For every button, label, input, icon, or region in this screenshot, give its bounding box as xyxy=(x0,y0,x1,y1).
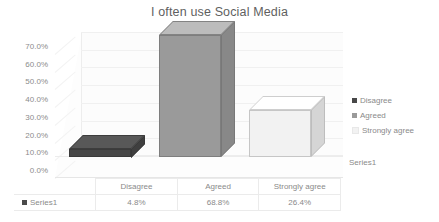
bar-strongly-agree[interactable] xyxy=(249,110,311,157)
table-cell-value: 26.4% xyxy=(259,195,341,211)
y-tick-label: 40.0% xyxy=(25,95,48,104)
series-swatch-icon xyxy=(22,200,27,205)
data-table: Disagree Agreed Strongly agree Series1 4… xyxy=(14,178,341,211)
table-column-header: Disagree xyxy=(96,179,178,195)
table-corner-cell xyxy=(14,179,96,195)
legend-label: Agreed xyxy=(360,112,386,120)
y-tick-label: 50.0% xyxy=(25,77,48,86)
legend-swatch-icon xyxy=(352,113,357,118)
y-tick-label: 0.0% xyxy=(30,166,48,175)
table-column-header: Strongly agree xyxy=(259,179,341,195)
bar-front-face xyxy=(249,110,311,157)
table-row-header: Series1 xyxy=(14,195,96,211)
bar-side-face xyxy=(221,21,235,157)
chart-container: I often use Social Media 70.0% 60.0% 50.… xyxy=(0,0,439,222)
legend-item-disagree[interactable]: Disagree xyxy=(352,93,439,108)
legend-label: Strongly agree xyxy=(362,127,414,135)
table-cell-value: 68.8% xyxy=(177,195,259,211)
y-tick-label: 60.0% xyxy=(25,59,48,68)
y-tick-label: 70.0% xyxy=(25,42,48,51)
series-axis-label: Series1 xyxy=(349,158,376,167)
y-tick-label: 30.0% xyxy=(25,112,48,121)
legend-label: Disagree xyxy=(360,97,392,105)
bar-series xyxy=(55,32,343,178)
chart-title: I often use Social Media xyxy=(0,5,439,19)
legend-swatch-icon xyxy=(352,127,359,134)
table-column-header: Agreed xyxy=(177,179,259,195)
legend-item-strongly-agree[interactable]: Strongly agree xyxy=(352,123,439,138)
y-tick-label: 10.0% xyxy=(25,148,48,157)
table-row-label: Series1 xyxy=(30,198,57,207)
bar-front-face xyxy=(69,149,131,158)
bar-agreed[interactable] xyxy=(159,35,221,157)
legend-item-agreed[interactable]: Agreed xyxy=(352,108,439,123)
legend-swatch-icon xyxy=(352,98,357,103)
y-axis: 70.0% 60.0% 50.0% 40.0% 30.0% 20.0% 10.0… xyxy=(0,32,52,178)
table-cell-value: 4.8% xyxy=(96,195,178,211)
legend: Disagree Agreed Strongly agree xyxy=(352,93,439,138)
bar-disagree[interactable] xyxy=(69,149,131,158)
table-row: Series1 4.8% 68.8% 26.4% xyxy=(14,195,341,211)
bar-front-face xyxy=(159,35,221,157)
y-tick-label: 20.0% xyxy=(25,130,48,139)
table-row-headers: Disagree Agreed Strongly agree xyxy=(14,179,341,195)
